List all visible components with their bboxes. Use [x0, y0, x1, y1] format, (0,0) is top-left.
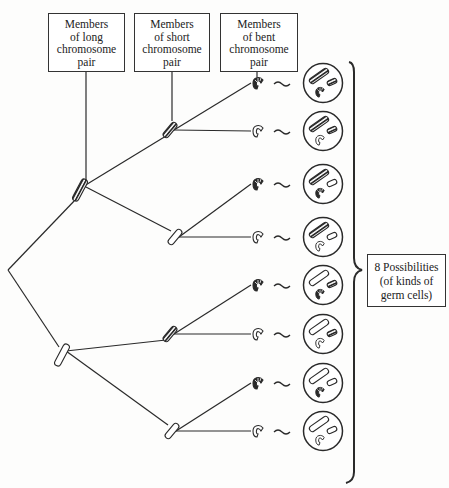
dark-bent-chromosome-icon	[253, 78, 263, 89]
light-bent-chromosome-icon	[253, 232, 263, 243]
tilde-connector	[274, 82, 290, 86]
grouping-brace	[346, 62, 362, 483]
tilde-connector	[274, 382, 290, 386]
tilde-connector	[274, 430, 290, 434]
result-line: germ cells)	[368, 288, 445, 302]
germ-cell	[304, 315, 343, 354]
result-line: 8 Possibilities	[368, 260, 445, 274]
inheritance-tree	[0, 0, 449, 488]
tree-lines	[8, 72, 257, 431]
tilde-connector	[274, 183, 290, 187]
tree-nodes	[53, 78, 290, 440]
hatched-chromosome-icon	[71, 178, 88, 202]
germ-cell	[304, 364, 343, 403]
germ-cell	[304, 165, 343, 204]
germ-cell	[304, 112, 343, 151]
result-line: (of kinds of	[368, 274, 445, 288]
plain-chromosome-icon	[53, 343, 70, 367]
light-bent-chromosome-icon	[253, 426, 263, 437]
tilde-connector	[274, 236, 290, 240]
germ-cell	[304, 412, 343, 451]
dark-bent-chromosome-icon	[253, 280, 263, 291]
germ-cell	[304, 64, 343, 103]
light-bent-chromosome-icon	[253, 329, 263, 340]
light-bent-chromosome-icon	[253, 126, 263, 137]
tilde-connector	[274, 333, 290, 337]
germ-cells	[304, 64, 343, 451]
germ-cell	[304, 266, 343, 305]
tilde-connector	[274, 284, 290, 288]
germ-cell	[304, 218, 343, 257]
tilde-connector	[274, 130, 290, 134]
dark-bent-chromosome-icon	[253, 378, 263, 389]
result-label: 8 Possibilities (of kinds of germ cells)	[367, 254, 446, 307]
dark-bent-chromosome-icon	[253, 179, 263, 190]
